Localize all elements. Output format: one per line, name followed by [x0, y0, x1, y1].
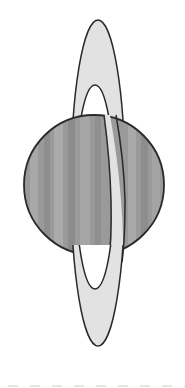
- planet-body: [24, 110, 164, 260]
- planet-illustration: [0, 0, 185, 388]
